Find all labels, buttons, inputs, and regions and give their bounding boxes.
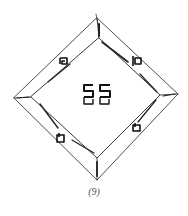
- monogram: [84, 85, 110, 104]
- scroll-ornaments: [57, 56, 141, 142]
- inner-diamond: [31, 38, 160, 158]
- diamond-frame-sketch: [0, 0, 188, 216]
- figure-caption: (9): [0, 186, 188, 197]
- outer-diamond: [14, 18, 178, 180]
